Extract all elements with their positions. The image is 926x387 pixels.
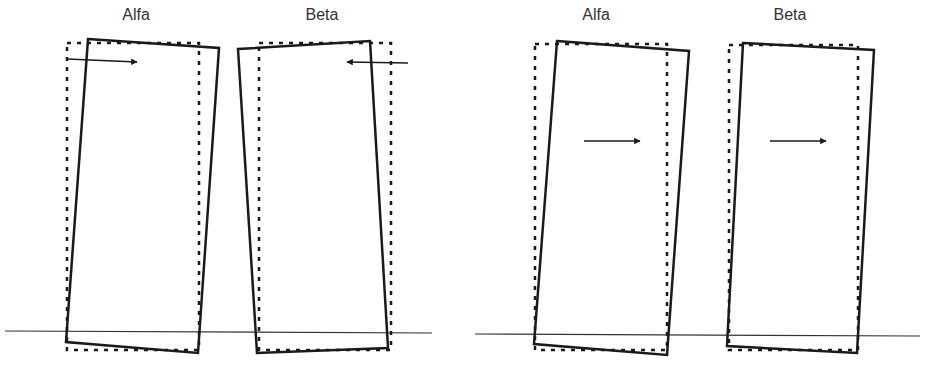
label-beta-left: Beta (306, 6, 339, 24)
left-panel (5, 39, 432, 353)
rotated-outline-solid (534, 41, 689, 355)
original-outline-dashed (729, 45, 858, 350)
rotated-outline-solid (238, 41, 388, 353)
original-outline-dashed (535, 44, 667, 350)
rotated-outline-solid (727, 43, 874, 353)
rotated-outline-solid (66, 39, 219, 353)
right-panel (475, 41, 920, 355)
label-alfa-right: Alfa (582, 6, 610, 24)
block-beta-left (238, 41, 408, 353)
arrow-icon (67, 59, 137, 62)
original-outline-dashed (259, 43, 391, 350)
arrow-icon (347, 62, 408, 63)
label-alfa-left: Alfa (122, 6, 150, 24)
diagram-canvas (0, 0, 926, 387)
block-alfa-left (66, 39, 219, 353)
block-alfa-right (534, 41, 689, 355)
label-beta-right: Beta (774, 6, 807, 24)
ground-line (475, 334, 920, 336)
original-outline-dashed (67, 43, 199, 350)
ground-line (5, 331, 432, 333)
block-beta-right (727, 43, 874, 353)
